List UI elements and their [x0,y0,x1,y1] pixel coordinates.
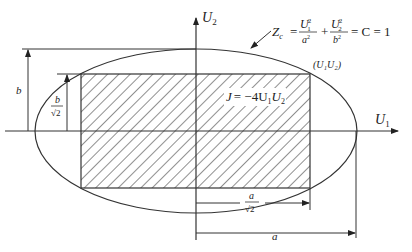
svg-text:b: b [55,94,60,105]
u1-axis-label: U1 [375,112,390,129]
u2-axis-label: U2 [202,10,217,27]
a-sqrt2-label: a √2 [245,190,259,214]
svg-text:Zc: Zc [272,24,283,41]
b-sqrt2-label: b √2 [51,94,63,118]
ellipse-equation: Zc = U21 a2 + U22 b2 = C = 1 [272,17,391,45]
corner-point-label: (U₁U₂) [313,59,342,71]
svg-text:a2: a2 [302,34,310,45]
b-label: b [16,84,22,96]
svg-text:= C = 1: = C = 1 [351,24,391,39]
a-label: a [272,230,278,242]
svg-text:U21: U21 [300,17,312,33]
svg-text:a: a [249,190,254,201]
svg-text:√2: √2 [51,108,60,118]
svg-text:√2: √2 [245,204,254,214]
svg-text:=: = [290,24,297,39]
svg-text:b2: b2 [333,34,341,45]
ellipse-rectangle-diagram: U2 U1 Zc = U21 a2 + U22 b2 = C = 1 (U₁U₂… [0,0,412,252]
annotation-pointer-arrow [251,31,271,48]
svg-text:U22: U22 [331,17,343,33]
svg-text:+: + [321,24,328,39]
objective-label: J= −4U1U2 [226,89,285,106]
